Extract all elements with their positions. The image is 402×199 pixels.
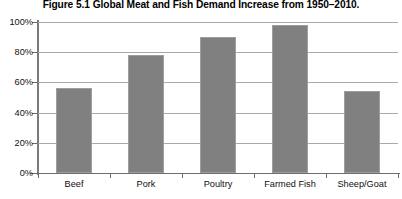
y-axis-tick-label: 0%	[2, 169, 33, 178]
gridline	[38, 22, 398, 23]
x-axis-tick	[38, 173, 39, 178]
x-axis-label-pork: Pork	[110, 179, 182, 190]
figure-title-text: Global Meat and Fish Demand Increase fro…	[93, 0, 360, 10]
figure-title: Figure 5.1Global Meat and Fish Demand In…	[0, 0, 402, 11]
x-axis-label-poultry: Poultry	[182, 179, 254, 190]
figure-number: Figure 5.1	[43, 0, 90, 10]
bar-poultry	[200, 37, 236, 173]
bar-pork	[128, 55, 164, 173]
x-axis-tick	[398, 173, 399, 178]
x-axis-tick	[254, 173, 255, 178]
x-axis-tick	[182, 173, 183, 178]
y-axis-tick-label: 60%	[2, 78, 33, 87]
x-axis-tick	[326, 173, 327, 178]
y-axis-tick-label: 80%	[2, 48, 33, 57]
bar-beef	[56, 88, 92, 173]
x-axis-label-farmed-fish: Farmed Fish	[254, 179, 326, 190]
x-axis-label-sheep-goat: Sheep/Goat	[326, 179, 398, 190]
figure-container: Figure 5.1Global Meat and Fish Demand In…	[0, 0, 402, 199]
x-axis-label-beef: Beef	[38, 179, 110, 190]
y-axis-tick-label: 100%	[2, 18, 33, 27]
x-axis-line	[30, 173, 400, 174]
bar-farmed-fish	[272, 25, 308, 173]
y-axis-tick-label: 20%	[2, 138, 33, 147]
y-axis-tick-label: 40%	[2, 108, 33, 117]
x-axis-tick	[110, 173, 111, 178]
plot-area: 0%20%40%60%80%100%	[38, 22, 398, 173]
bar-sheep-goat	[344, 91, 380, 173]
